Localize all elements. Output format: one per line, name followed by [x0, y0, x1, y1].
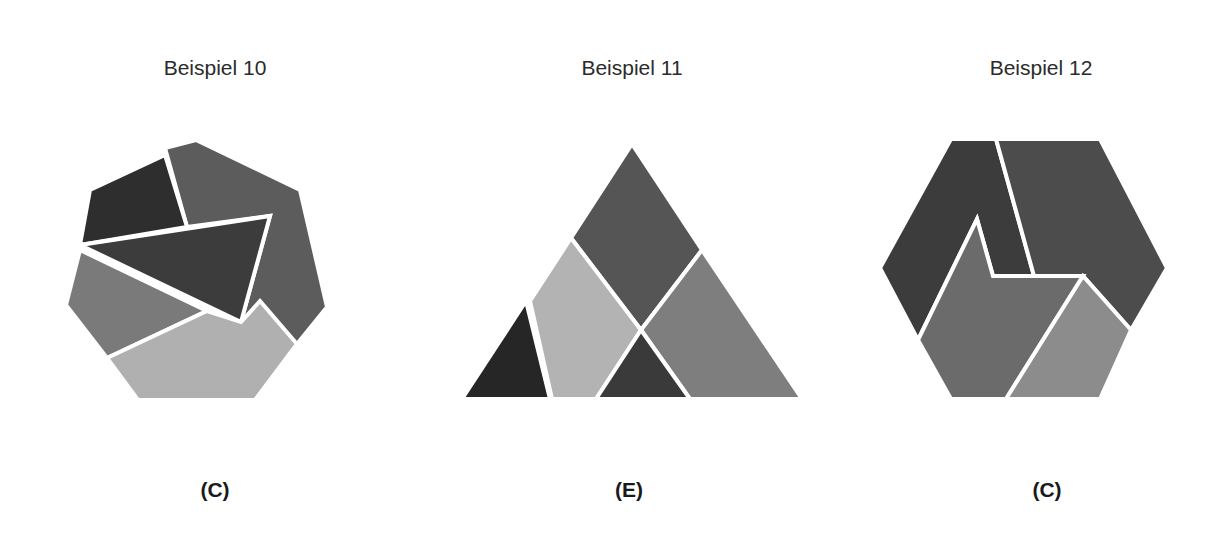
- triangle-figure: [462, 144, 802, 399]
- example-11-answer: (E): [569, 478, 689, 502]
- example-12-answer: (C): [987, 478, 1107, 502]
- hexagon-figure: [880, 139, 1167, 399]
- puzzle-figures: [0, 0, 1225, 556]
- heptagon-figure: [66, 140, 327, 400]
- example-10-answer: (C): [155, 478, 275, 502]
